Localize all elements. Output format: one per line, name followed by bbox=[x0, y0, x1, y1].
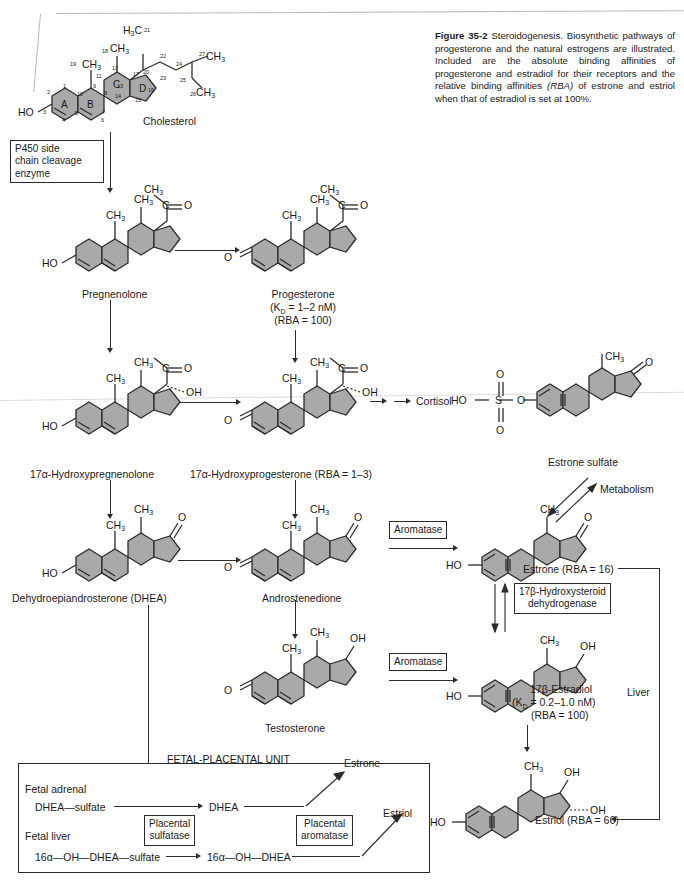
fetal-unit-estrone-output: Estrone bbox=[344, 757, 380, 770]
svg-text:25: 25 bbox=[180, 77, 186, 83]
arrowhead-hydroxy-dhea-sulfate bbox=[196, 853, 201, 859]
hydroxypregnenolone-structure: HO CH3 CH3 C O OH bbox=[62, 348, 252, 448]
figure-number: Figure 35-2 bbox=[435, 30, 487, 41]
arrow-pregnenolone-hydroxypregnenolone bbox=[110, 300, 111, 350]
cortisol-name-label: Cortisol bbox=[416, 395, 452, 408]
svg-text:HO: HO bbox=[446, 559, 462, 571]
svg-text:CH3: CH3 bbox=[110, 42, 129, 55]
svg-text:HO: HO bbox=[42, 257, 58, 269]
svg-text:1: 1 bbox=[63, 83, 66, 89]
svg-text:O: O bbox=[517, 394, 525, 406]
svg-text:OH: OH bbox=[350, 632, 366, 644]
hsd-17b-box: 17β-Hydroxysteroid dehydrogenase bbox=[514, 583, 611, 614]
svg-text:A: A bbox=[61, 99, 68, 110]
svg-text:S: S bbox=[495, 394, 502, 406]
svg-text:CH3: CH3 bbox=[206, 50, 225, 63]
cholesterol-ho-label: HO bbox=[18, 106, 34, 118]
svg-text:20: 20 bbox=[143, 69, 149, 75]
svg-text:HO: HO bbox=[42, 567, 58, 579]
arrowhead-androstenedione-estrone bbox=[453, 545, 458, 551]
svg-text:CH3: CH3 bbox=[282, 209, 301, 222]
svg-text:10: 10 bbox=[77, 91, 83, 97]
svg-text:H3C: H3C bbox=[123, 24, 143, 37]
arrow-hydroxy-dhea-sulfate bbox=[166, 856, 198, 857]
svg-text:CH3: CH3 bbox=[310, 356, 329, 369]
svg-text:O: O bbox=[360, 362, 368, 374]
aromatase-1-box: Aromatase bbox=[389, 521, 447, 539]
svg-text:CH3: CH3 bbox=[106, 209, 125, 222]
svg-text:C: C bbox=[338, 199, 346, 211]
svg-text:12: 12 bbox=[112, 65, 118, 71]
arrowhead-estradiol-estriol bbox=[524, 747, 530, 752]
progesterone-kd-value: = 1–2 nM) bbox=[286, 301, 337, 313]
svg-text:CH3: CH3 bbox=[282, 642, 301, 655]
svg-text:OH: OH bbox=[564, 766, 580, 778]
dhea-sulfate-label: DHEA—sulfate bbox=[35, 801, 106, 814]
fetal-unit-estriol-output: Estriol bbox=[383, 807, 412, 820]
testosterone-structure: O CH3 CH3 OH bbox=[238, 628, 428, 718]
hydroxy-dhea-sulfate-label: 16α—OH—DHEA—sulfate bbox=[35, 851, 160, 864]
estrone-sulfate-structure: HO S O O O CH3 O bbox=[455, 362, 670, 452]
arrow-dhea-fetal-unit bbox=[148, 605, 149, 765]
svg-text:CH3: CH3 bbox=[144, 183, 163, 196]
arrowhead-cortisol-1 bbox=[382, 398, 387, 404]
pregnenolone-name-label: Pregnenolone bbox=[82, 288, 147, 301]
svg-text:3: 3 bbox=[43, 109, 46, 115]
placental-sulfatase-box: Placental sulfatase bbox=[144, 815, 195, 846]
svg-text:18: 18 bbox=[102, 48, 108, 54]
svg-text:CH3: CH3 bbox=[282, 519, 301, 532]
svg-text:15: 15 bbox=[135, 97, 141, 103]
svg-text:O: O bbox=[496, 368, 504, 380]
pregnenolone-structure: HO CH3 CH3 C O CH3 bbox=[62, 185, 252, 285]
hydroxyprogesterone-structure: O CH3 CH3 C O OH bbox=[238, 348, 428, 448]
estriol-structure: HO CH3 OH OH bbox=[452, 758, 642, 853]
estriol-name-label: Estriol (RBA = 66) bbox=[535, 814, 619, 827]
svg-text:C: C bbox=[162, 362, 170, 374]
svg-text:CH3: CH3 bbox=[196, 86, 215, 99]
svg-text:6: 6 bbox=[101, 117, 104, 123]
svg-text:O: O bbox=[354, 511, 362, 523]
progesterone-name-label: Progesterone bbox=[238, 288, 368, 301]
svg-text:O: O bbox=[360, 199, 368, 211]
svg-text:C: C bbox=[338, 362, 346, 374]
svg-text:CH3: CH3 bbox=[540, 503, 559, 516]
androstenedione-structure: O CH3 CH3 O bbox=[238, 505, 428, 595]
svg-text:19: 19 bbox=[70, 61, 76, 67]
svg-text:CH3: CH3 bbox=[310, 503, 329, 516]
dhea-structure: HO CH3 CH3 O bbox=[62, 505, 252, 595]
figure-caption: Figure 35-2 Steroidogenesis. Biosyntheti… bbox=[435, 30, 675, 106]
arrow-hydroxypregnenolone-hydroxyprogesterone bbox=[180, 402, 238, 403]
estrone-name-label: Estrone (RBA = 16) bbox=[523, 563, 614, 576]
svg-text:22: 22 bbox=[160, 53, 166, 59]
svg-text:4: 4 bbox=[62, 117, 65, 123]
svg-text:O: O bbox=[224, 684, 232, 696]
svg-text:13: 13 bbox=[117, 83, 123, 89]
dhea-name-label: Dehydroepiandrosterone (DHEA) bbox=[12, 592, 167, 605]
svg-text:11: 11 bbox=[96, 73, 102, 79]
svg-text:17: 17 bbox=[133, 71, 139, 77]
svg-text:CH3: CH3 bbox=[134, 356, 153, 369]
svg-text:23: 23 bbox=[160, 75, 166, 81]
arrowhead-cortisol-2 bbox=[406, 398, 411, 404]
arrow-testosterone-estradiol bbox=[389, 680, 455, 681]
estradiol-kd-value: = 0.2–1.0 nM) bbox=[528, 696, 596, 708]
hsd-line-2: dehydrogenase bbox=[519, 598, 606, 610]
svg-text:O: O bbox=[178, 511, 186, 523]
fetal-placental-unit-title: FETAL-PLACENTAL UNIT bbox=[167, 753, 290, 766]
svg-text:9: 9 bbox=[93, 83, 96, 89]
arrowhead-testosterone-estradiol bbox=[453, 677, 458, 683]
scan-edge-top bbox=[56, 10, 684, 14]
svg-text:16: 16 bbox=[148, 87, 154, 93]
svg-text:D: D bbox=[139, 83, 146, 94]
svg-text:O: O bbox=[224, 414, 232, 426]
liver-label: Liver bbox=[627, 686, 650, 699]
placental-sulfatase-line-2: sulfatase bbox=[149, 830, 190, 842]
arrow-androstenedione-estrone bbox=[389, 548, 455, 549]
figure-page: Figure 35-2 Steroidogenesis. Biosyntheti… bbox=[0, 0, 684, 886]
svg-text:B: B bbox=[87, 99, 94, 110]
p450-scc-enzyme-box: P450 side chain cleavage enzyme bbox=[10, 140, 104, 183]
dhea-label: DHEA bbox=[209, 801, 238, 814]
svg-text:O: O bbox=[184, 362, 192, 374]
svg-text:HO: HO bbox=[446, 690, 462, 702]
svg-text:26: 26 bbox=[190, 91, 196, 97]
